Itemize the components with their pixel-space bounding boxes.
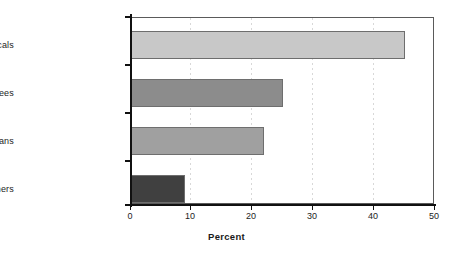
- category-label-returnees: Returnees: [0, 88, 14, 98]
- y-tick-3: [125, 160, 131, 162]
- x-tick-label-50: 50: [419, 211, 449, 221]
- y-tick-2: [125, 112, 131, 114]
- bar-locals[interactable]: [131, 31, 405, 59]
- bar-chart: Locals Returnees Non-resident Ghanaians …: [0, 0, 453, 254]
- x-tick-label-20: 20: [236, 211, 266, 221]
- y-axis-line: [130, 14, 132, 207]
- x-tick-50: [434, 206, 435, 210]
- bar-others[interactable]: [131, 175, 185, 203]
- y-tick-0: [125, 16, 131, 18]
- bar-returnees[interactable]: [131, 79, 283, 107]
- category-label-non-resident-ghanaians: Non-resident Ghanaians: [0, 136, 14, 146]
- x-tick-40: [373, 206, 374, 210]
- x-tick-label-10: 10: [175, 211, 205, 221]
- x-tick-label-0: 0: [115, 211, 145, 221]
- x-tick-20: [251, 206, 252, 210]
- x-axis-line: [128, 204, 436, 206]
- bar-non-resident-ghanaians[interactable]: [131, 127, 264, 155]
- x-tick-label-30: 30: [297, 211, 327, 221]
- x-tick-30: [312, 206, 313, 210]
- category-label-others: Others: [0, 184, 14, 194]
- category-label-locals: Locals: [0, 40, 14, 50]
- x-axis-title: Percent: [0, 231, 453, 242]
- x-tick-10: [190, 206, 191, 210]
- x-tick-label-40: 40: [358, 211, 388, 221]
- x-tick-0: [130, 206, 131, 210]
- y-tick-1: [125, 64, 131, 66]
